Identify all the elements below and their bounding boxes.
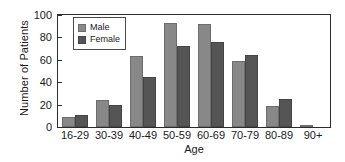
y-axis-tick-label: 80: [20, 32, 52, 43]
bar-group: [266, 15, 292, 127]
legend-swatch-female-icon: [78, 36, 86, 44]
bar-male: [96, 100, 109, 127]
bar-female: [177, 46, 190, 127]
y-axis-tick-label: 20: [20, 100, 52, 111]
bar-female: [211, 42, 224, 127]
bar-female: [75, 115, 88, 127]
bar-chart: Number of Patients 020406080100 16-2930-…: [0, 0, 345, 162]
bar-male: [130, 56, 143, 127]
legend-swatch-male-icon: [78, 24, 86, 32]
bar-male: [232, 61, 245, 127]
bar-group: [198, 15, 224, 127]
bar-male: [198, 24, 211, 127]
bar-female: [109, 105, 122, 127]
y-axis-tick-label: 60: [20, 55, 52, 66]
legend-item-male: Male: [78, 22, 120, 33]
bar-group: [130, 15, 156, 127]
x-axis-title: Age: [57, 143, 331, 155]
bar-group: [164, 15, 190, 127]
legend-label-female: Female: [90, 35, 120, 44]
bar-male: [164, 23, 177, 127]
bar-female: [143, 77, 156, 127]
bar-male: [62, 117, 75, 127]
legend: Male Female: [73, 17, 126, 50]
y-axis-tick-label: 100: [20, 10, 52, 21]
bar-male: [300, 125, 313, 127]
y-axis-tick-mark: [57, 127, 62, 128]
x-axis-tick-label: 90+: [290, 129, 336, 141]
y-axis-title: Number of Patients: [18, 3, 30, 133]
bar-group: [232, 15, 258, 127]
y-axis-tick-label: 40: [20, 77, 52, 88]
bar-male: [266, 106, 279, 127]
legend-label-male: Male: [90, 23, 110, 32]
legend-item-female: Female: [78, 34, 120, 45]
bar-female: [245, 55, 258, 127]
bar-group: [300, 15, 326, 127]
bar-female: [279, 99, 292, 127]
y-axis-tick-label: 0: [20, 122, 52, 133]
